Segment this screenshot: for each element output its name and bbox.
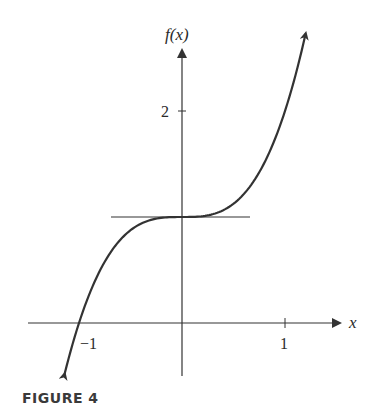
y-tick-label-2: 2 (161, 103, 169, 120)
figure-caption: FIGURE 4 (22, 390, 99, 406)
x-axis-label: x (348, 313, 357, 332)
plot-area: f(x) x 2 −1 1 (0, 0, 386, 414)
y-axis-label: f(x) (165, 25, 189, 44)
figure: f(x) x 2 −1 1 FIGURE 4 (0, 0, 386, 414)
x-tick-label-neg1: −1 (80, 335, 97, 352)
x-tick-label-1: 1 (280, 335, 288, 352)
